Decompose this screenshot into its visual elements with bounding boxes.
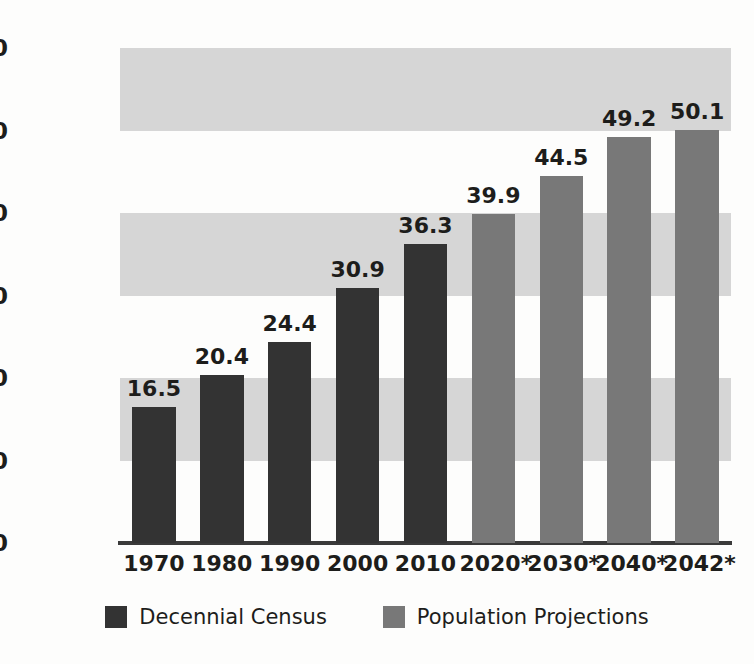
bar-group: 16.520.424.430.936.339.944.549.250.1 bbox=[120, 48, 731, 543]
bar-slot: 30.9 bbox=[324, 48, 392, 543]
y-axis-tick-label: 40 bbox=[0, 200, 8, 226]
y-axis-title-label: Percentage of Total US Population bbox=[0, 133, 83, 532]
x-axis-tick-label: 2040* bbox=[595, 551, 663, 576]
bar-census[interactable] bbox=[404, 244, 447, 543]
x-axis-tick-label: 1970 bbox=[120, 551, 188, 576]
bar-value-label: 36.3 bbox=[392, 213, 460, 238]
bar-value-label: 44.5 bbox=[527, 145, 595, 170]
legend-swatch-icon bbox=[105, 606, 127, 628]
bar-value-label: 30.9 bbox=[324, 257, 392, 282]
x-axis-tick-label: 2020* bbox=[459, 551, 527, 576]
bar-census[interactable] bbox=[268, 342, 311, 543]
y-axis-title: Percentage of Total US Population bbox=[0, 0, 56, 664]
bar-slot: 44.5 bbox=[527, 48, 595, 543]
bar-projection[interactable] bbox=[607, 137, 650, 543]
bar-slot: 50.1 bbox=[663, 48, 731, 543]
x-axis-tick-label: 2000 bbox=[324, 551, 392, 576]
bar-census[interactable] bbox=[200, 375, 243, 543]
x-axis-tick-label: 2010 bbox=[392, 551, 460, 576]
bar-projection[interactable] bbox=[675, 130, 718, 543]
legend-item[interactable]: Population Projections bbox=[383, 605, 649, 629]
legend-label: Population Projections bbox=[417, 605, 649, 629]
x-axis-tick-group: 197019801990200020102020*2030*2040*2042* bbox=[120, 551, 731, 591]
y-axis-tick-label: 30 bbox=[0, 283, 8, 309]
bar-value-label: 49.2 bbox=[595, 106, 663, 131]
bar-value-label: 24.4 bbox=[256, 311, 324, 336]
x-axis-tick-label: 1990 bbox=[256, 551, 324, 576]
y-axis-tick-label: 10 bbox=[0, 448, 8, 474]
y-axis-tick-label: 60 bbox=[0, 35, 8, 61]
bar-slot: 24.4 bbox=[256, 48, 324, 543]
bar-census[interactable] bbox=[132, 407, 175, 543]
bar-value-label: 20.4 bbox=[188, 344, 256, 369]
legend-swatch-icon bbox=[383, 606, 405, 628]
bar-census[interactable] bbox=[336, 288, 379, 543]
bar-value-label: 16.5 bbox=[120, 376, 188, 401]
bar-value-label: 39.9 bbox=[459, 183, 527, 208]
bar-slot: 36.3 bbox=[392, 48, 460, 543]
y-axis-tick-label: 20 bbox=[0, 365, 8, 391]
legend-item[interactable]: Decennial Census bbox=[105, 605, 326, 629]
bar-chart: Percentage of Total US Population 010203… bbox=[0, 0, 754, 664]
x-axis-tick-label: 2042* bbox=[663, 551, 731, 576]
y-axis-tick-label: 0 bbox=[0, 530, 8, 556]
y-axis-tick-label: 50 bbox=[0, 118, 8, 144]
bar-slot: 20.4 bbox=[188, 48, 256, 543]
x-axis-tick-label: 1980 bbox=[188, 551, 256, 576]
legend: Decennial CensusPopulation Projections bbox=[0, 605, 754, 629]
bar-value-label: 50.1 bbox=[663, 99, 731, 124]
bar-projection[interactable] bbox=[472, 214, 515, 543]
legend-label: Decennial Census bbox=[139, 605, 326, 629]
bar-slot: 39.9 bbox=[459, 48, 527, 543]
bar-slot: 49.2 bbox=[595, 48, 663, 543]
x-axis-tick-label: 2030* bbox=[527, 551, 595, 576]
bar-slot: 16.5 bbox=[120, 48, 188, 543]
bar-projection[interactable] bbox=[540, 176, 583, 543]
